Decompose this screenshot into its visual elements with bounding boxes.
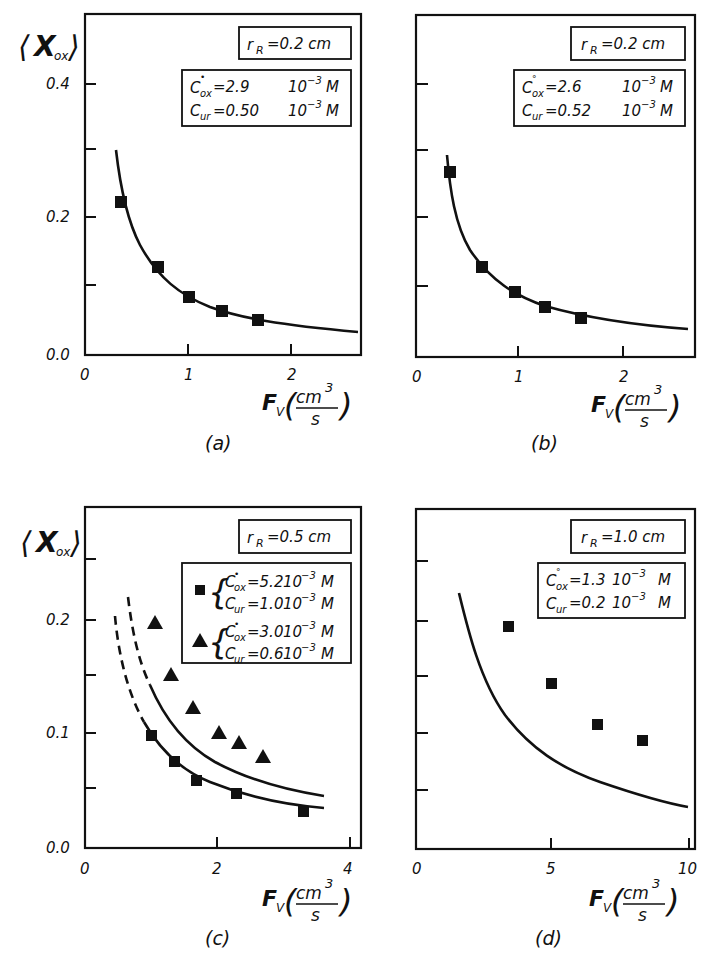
- svg-text:ox: ox: [234, 632, 246, 643]
- svg-text:s: s: [311, 905, 320, 925]
- svg-text:10: 10: [283, 595, 302, 613]
- svg-text:°: °: [556, 567, 561, 577]
- svg-text:10: 10: [283, 573, 302, 591]
- x-tick-label: 1: [184, 366, 194, 384]
- x-ticks-c: [217, 837, 350, 848]
- x-tick-label: 0: [80, 366, 90, 384]
- svg-text:M: M: [326, 102, 339, 120]
- svg-text:s: s: [638, 905, 647, 925]
- svg-text:=0.2 cm: =0.2 cm: [601, 35, 665, 53]
- svg-text:F: F: [262, 390, 277, 415]
- y-tick-label: 0.0: [46, 346, 70, 364]
- svg-text:10: 10: [283, 645, 302, 663]
- svg-text:•: •: [234, 619, 239, 629]
- svg-text:3: 3: [652, 876, 660, 891]
- concentration-box-d: C ° ox =1.3 10 −3 M C ur =0.2 10 −3 M: [538, 563, 685, 618]
- svg-text:=1.3: =1.3: [569, 571, 605, 589]
- svg-text:ur: ur: [200, 111, 211, 122]
- svg-text:M: M: [321, 595, 334, 613]
- panel-d: 0 5 10 F V ( cm 3 s ) (d) r R =1.0 cm C …: [412, 509, 697, 949]
- data-points-a: [115, 196, 264, 326]
- svg-text:cm: cm: [296, 883, 322, 903]
- svg-text:10: 10: [622, 102, 641, 120]
- panel-c: ⟨ X ox ⟩ 0.2 0.1 0.0 0 2 4 F V ( cm 3: [20, 507, 361, 949]
- svg-text:R: R: [590, 44, 598, 57]
- svg-text:10: 10: [288, 102, 307, 120]
- plot-frame-a: [85, 14, 361, 355]
- svg-text:ox: ox: [200, 88, 212, 99]
- model-curve-b: [447, 155, 688, 329]
- svg-text:F: F: [589, 886, 604, 911]
- data-points-b: [444, 166, 587, 324]
- svg-text:M: M: [660, 102, 673, 120]
- svg-text:10: 10: [612, 594, 631, 612]
- svg-text:ur: ur: [556, 604, 567, 615]
- y-ticks-a: [85, 84, 96, 285]
- y-tick-label: 0.4: [46, 75, 70, 93]
- svg-text:10: 10: [288, 78, 307, 96]
- y-axis-label-a: ⟨ X ox ⟩: [18, 29, 80, 64]
- svg-text:F: F: [591, 392, 606, 417]
- panel-b: 0 1 2 F V ( cm 3 s ) (b) r R =0.2 cm C °…: [412, 15, 695, 454]
- x-tick-label: 5: [546, 860, 556, 878]
- svg-text:•: •: [200, 72, 205, 82]
- svg-text:r: r: [247, 36, 254, 54]
- data-points-d: [503, 621, 648, 746]
- svg-text:=0.2 cm: =0.2 cm: [267, 35, 331, 53]
- svg-text:⟩: ⟩: [67, 29, 80, 64]
- x-tick-label: 2: [212, 860, 222, 878]
- x-tick-label: 0: [412, 368, 422, 386]
- svg-text:): ): [667, 388, 681, 426]
- y-ticks-d: [416, 561, 428, 790]
- svg-text:r: r: [247, 529, 254, 547]
- radius-box-c: r R =0.5 cm: [239, 520, 351, 553]
- x-tick-label: 4: [343, 860, 353, 878]
- svg-text:−3: −3: [631, 568, 646, 579]
- square-marker-icon: [195, 585, 205, 595]
- panel-a: ⟨ X ox ⟩ 0.4 0.2 0.0 0 1 2 F V ( cm: [18, 14, 361, 454]
- svg-text:cm: cm: [625, 389, 651, 409]
- x-tick-label: 1: [514, 368, 524, 386]
- concentration-box-a: C • ox =2.9 10 −3 M C ur =0.50 10 −3 M: [182, 70, 351, 126]
- svg-text:−3: −3: [301, 642, 316, 653]
- figure-canvas: ⟨ X ox ⟩ 0.4 0.2 0.0 0 1 2 F V ( cm: [0, 0, 712, 961]
- svg-text:=2.6: =2.6: [545, 78, 581, 96]
- svg-text:=1.0 cm: =1.0 cm: [601, 528, 665, 546]
- svg-text:=0.5 cm: =0.5 cm: [267, 528, 331, 546]
- y-tick-label: 0.0: [46, 839, 70, 857]
- model-curve-upper-dashed-c: [128, 597, 150, 685]
- svg-text:R: R: [590, 537, 598, 550]
- radius-box-a: r R =0.2 cm: [239, 27, 351, 59]
- model-curve-a: [116, 150, 358, 332]
- x-tick-label: 2: [619, 368, 629, 386]
- x-tick-label: 10: [678, 860, 697, 878]
- svg-text:): ): [338, 386, 352, 424]
- plot-frame-b: [416, 15, 695, 357]
- panel-caption-d: (d): [535, 927, 562, 949]
- svg-text:°: °: [532, 74, 537, 84]
- svg-text:ox: ox: [556, 581, 568, 592]
- y-axis-label-c: ⟨ X ox ⟩: [20, 525, 82, 560]
- svg-text:=5.2: =5.2: [247, 573, 283, 591]
- svg-text:R: R: [256, 44, 264, 57]
- svg-text:M: M: [658, 571, 671, 589]
- model-curve-lower-dashed-c: [115, 616, 144, 722]
- svg-text:=0.50: =0.50: [213, 102, 259, 120]
- svg-text:10: 10: [622, 78, 641, 96]
- radius-box-d: r R =1.0 cm: [571, 520, 685, 553]
- svg-text:=3.0: =3.0: [247, 623, 283, 641]
- x-ticks-b: [518, 346, 623, 357]
- x-axis-label-c: F V ( cm 3 s ): [262, 876, 352, 925]
- series-legend-c: { C • ox =5.2 10 −3 M C ur =1.0 10 −3 M …: [182, 563, 351, 665]
- svg-text:ur: ur: [234, 604, 245, 615]
- svg-text:=0.52: =0.52: [545, 102, 591, 120]
- x-ticks-d: [551, 838, 689, 849]
- x-axis-label-a: F V ( cm 3 s ): [262, 380, 352, 429]
- svg-text:•: •: [234, 569, 239, 579]
- svg-text:⟩: ⟩: [69, 525, 82, 560]
- panel-caption-b: (b): [531, 432, 558, 454]
- svg-text:ur: ur: [532, 111, 543, 122]
- panel-caption-a: (a): [205, 432, 231, 454]
- svg-text:−3: −3: [301, 570, 316, 581]
- svg-text:=2.9: =2.9: [213, 78, 249, 96]
